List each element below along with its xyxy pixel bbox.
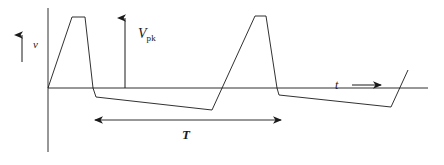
time-axis-label: t <box>335 79 338 91</box>
peak-voltage-subscript: pk <box>147 33 156 43</box>
voltage-axis-label: v <box>33 39 38 50</box>
waveform-plot-svg <box>0 0 444 165</box>
period-label: T <box>182 128 190 141</box>
peak-voltage-label: Vpk <box>138 27 156 43</box>
peak-voltage-symbol: V <box>138 26 147 41</box>
waveform-figure: v Vpk T t <box>0 0 444 165</box>
waveform-trace <box>48 16 408 110</box>
